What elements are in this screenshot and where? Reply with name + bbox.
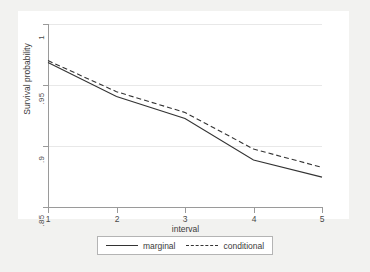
gridline-y-095	[49, 85, 322, 86]
x-tick-label-2: 2	[107, 214, 127, 224]
legend-label-marginal: marginal	[143, 241, 176, 251]
x-tick-label-3: 3	[175, 214, 195, 224]
x-tick-label-1: 1	[38, 214, 58, 224]
gridline-y-09	[49, 146, 322, 147]
legend: marginal conditional	[97, 236, 273, 255]
legend-item-marginal: marginal	[106, 241, 176, 251]
y-tick-label-09: .9	[37, 147, 46, 173]
x-tick-4	[254, 208, 255, 213]
y-axis-title: Survival probability	[22, 31, 32, 127]
legend-label-conditional: conditional	[223, 241, 264, 251]
plot-area	[48, 24, 322, 207]
y-tick-label-1: 1	[37, 25, 46, 51]
x-axis-title: interval	[48, 224, 323, 234]
legend-key-solid-icon	[106, 245, 138, 246]
legend-item-conditional: conditional	[186, 241, 264, 251]
x-tick-label-4: 4	[244, 214, 264, 224]
x-tick-label-5: 5	[312, 214, 332, 224]
y-tick-label-095: .95	[37, 86, 46, 112]
x-tick-5	[322, 208, 323, 213]
y-axis-line	[48, 24, 49, 208]
legend-key-dashed-icon	[186, 245, 218, 246]
x-tick-2	[117, 208, 118, 213]
chart-figure: 1 .95 .9 .85 1 2 3 4 5 Survival probabil…	[0, 0, 370, 272]
gridline-y-1	[49, 24, 322, 25]
x-tick-3	[185, 208, 186, 213]
x-tick-1	[48, 208, 49, 213]
